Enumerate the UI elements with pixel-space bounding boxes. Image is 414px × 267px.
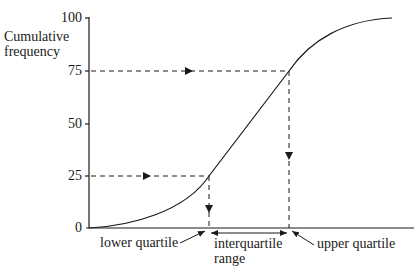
interquartile-range-label: interquartile range (214, 236, 282, 266)
tick-label-75: 75 (52, 64, 82, 78)
lower-quartile-guide (91, 176, 209, 228)
lower-quartile-pointer (180, 231, 205, 243)
arrow-right-icon (185, 67, 193, 75)
upper-quartile-pointer (292, 231, 314, 245)
y-axis-label-line1: Cumulative (4, 29, 69, 44)
y-axis-label-line2: frequency (4, 44, 69, 59)
arrow-right-icon (143, 172, 151, 180)
lower-quartile-label: lower quartile (100, 235, 178, 250)
arrow-down-icon (205, 205, 213, 213)
iqr-label-line1: interquartile (214, 236, 282, 251)
tick-label-25: 25 (52, 169, 82, 183)
tick-label-100: 100 (52, 11, 82, 25)
cumulative-frequency-curve (89, 18, 392, 228)
y-axis-label: Cumulative frequency (4, 29, 69, 59)
iqr-label-line2: range (214, 251, 282, 266)
tick-label-0: 0 (52, 221, 82, 235)
tick-label-50: 50 (52, 117, 82, 131)
arrow-down-icon (285, 152, 293, 160)
upper-quartile-label: upper quartile (317, 236, 395, 251)
upper-quartile-guide (91, 71, 289, 228)
